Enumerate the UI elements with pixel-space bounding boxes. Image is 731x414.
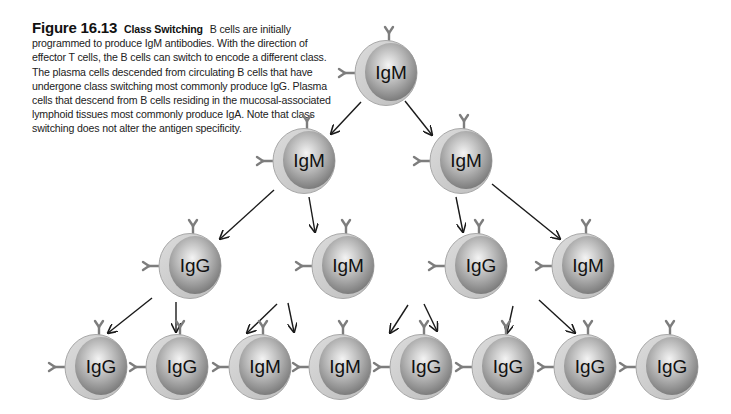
cell-label: IgG	[86, 356, 117, 377]
cell-label: IgM	[450, 150, 482, 171]
antibody-y-icon	[536, 262, 553, 270]
cell-label: IgG	[411, 356, 442, 377]
cell-label: IgM	[572, 255, 604, 276]
antibody-y-icon	[49, 363, 66, 371]
arrow-l1b-to-l2c	[456, 197, 463, 232]
arrow-l1a-to-l2b	[309, 197, 315, 232]
cell-label: IgG	[466, 255, 497, 276]
antibody-y-icon	[130, 363, 147, 371]
arrow-l2a-to-l3a	[108, 298, 152, 333]
antibody-y-icon	[538, 363, 555, 371]
cells-layer: IgMIgMIgMIgGIgMIgGIgMIgGIgGIgMIgMIgGIgGI…	[49, 27, 698, 400]
arrow-l2c-to-l3f	[424, 304, 437, 331]
antibody-y-icon	[456, 363, 473, 371]
cell-label: IgM	[293, 150, 325, 171]
arrow-l2d-to-l3h	[539, 300, 575, 333]
b-cell-igg: IgG	[130, 321, 208, 400]
b-cell-igm: IgM	[257, 115, 335, 194]
b-cell-igm: IgM	[339, 27, 417, 106]
cell-label: IgM	[329, 356, 361, 377]
b-cell-igg: IgG	[374, 321, 452, 400]
antibody-y-icon	[429, 262, 446, 270]
class-switching-diagram: IgMIgMIgMIgGIgMIgGIgMIgGIgGIgMIgMIgGIgGI…	[0, 0, 731, 414]
antibody-y-icon	[293, 363, 310, 371]
arrow-root-to-l1a	[331, 102, 361, 134]
cell-label: IgG	[493, 356, 524, 377]
cell-label: IgM	[375, 62, 407, 83]
cell-label: IgM	[332, 255, 364, 276]
b-cell-igm: IgM	[536, 220, 614, 299]
b-cell-igg: IgG	[143, 220, 221, 299]
b-cell-igg: IgG	[49, 321, 127, 400]
cell-label: IgG	[180, 255, 211, 276]
b-cell-igg: IgG	[620, 321, 698, 400]
b-cell-igg: IgG	[538, 321, 616, 400]
b-cell-igm: IgM	[296, 220, 374, 299]
antibody-y-icon	[374, 363, 391, 371]
arrow-l2c-to-l3e	[390, 305, 408, 333]
b-cell-igg: IgG	[456, 321, 534, 400]
arrow-l2b-to-l3d	[288, 303, 294, 332]
cell-label: IgM	[249, 356, 281, 377]
antibody-y-icon	[213, 363, 230, 371]
b-cell-igm: IgM	[293, 321, 371, 400]
antibody-y-icon	[339, 69, 356, 77]
antibody-y-icon	[620, 363, 637, 371]
arrow-l2d-to-l3g	[507, 306, 513, 333]
arrow-root-to-l1b	[405, 101, 432, 135]
arrow-l1a-to-l2a	[220, 190, 274, 239]
antibody-y-icon	[414, 157, 431, 165]
antibody-y-icon	[143, 262, 160, 270]
cell-label: IgG	[657, 356, 688, 377]
b-cell-igg: IgG	[429, 220, 507, 299]
antibody-y-icon	[257, 157, 274, 165]
antibody-y-icon	[296, 262, 313, 270]
cell-label: IgG	[167, 356, 198, 377]
cell-label: IgG	[575, 356, 606, 377]
arrow-l1b-to-l2d	[492, 184, 560, 239]
b-cell-igm: IgM	[213, 321, 291, 400]
